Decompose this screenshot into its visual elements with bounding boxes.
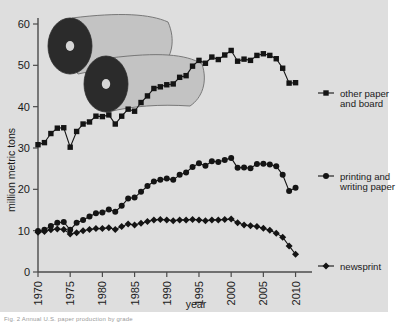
data-point [35,142,40,147]
data-point [87,214,93,220]
data-point [119,203,125,209]
data-point [247,222,254,229]
data-point [74,129,79,134]
x-tick-label: 2000 [225,281,237,305]
data-point [228,48,233,53]
data-point [132,195,138,201]
data-point [221,216,228,223]
data-point [241,164,247,170]
data-point [86,226,93,233]
data-point [241,56,246,61]
data-point [215,216,222,223]
data-point [176,216,183,223]
data-point [157,216,164,223]
data-point [293,80,298,85]
legend-label-line2: and board [340,98,383,109]
data-point [55,125,60,130]
y-tick-label: 10 [18,225,30,237]
data-point [164,176,170,182]
data-point [151,178,157,184]
data-point [273,230,280,237]
data-point [125,221,132,228]
data-point [235,59,240,64]
data-point [112,209,118,215]
legend-marker-diamond [323,263,330,270]
data-point [260,225,267,232]
data-point [189,216,196,223]
data-point [138,100,143,105]
data-point [260,161,266,167]
data-point [170,217,177,224]
y-axis-title: million metric tons [5,128,17,212]
y-tick-label: 0 [24,266,30,278]
paper-roll-illustration [48,15,204,112]
data-point [157,177,163,183]
data-point [61,219,67,225]
figure-container: 0102030405060197019751980198519901995200… [0,0,398,326]
chart-canvas: 0102030405060197019751980198519901995200… [0,0,398,326]
data-point [158,84,163,89]
data-point [144,218,151,225]
legend-label: newsprint [340,261,381,272]
legend-item-printing-and-writing-paper[interactable]: printing andwriting paper [318,171,396,193]
data-point [150,216,157,223]
data-point [48,131,53,136]
data-point [215,159,221,165]
data-point [183,216,190,223]
data-point [261,51,266,56]
x-tick-label: 1990 [161,281,173,305]
data-point [92,225,99,232]
legend-label-line2: writing paper [339,181,396,192]
data-point [60,226,67,233]
data-point [93,113,98,118]
data-point [54,226,61,233]
x-tick-label: 1985 [129,281,141,305]
legend-item-other-paper-and-board[interactable]: other paperand board [318,88,390,110]
data-point [286,80,291,85]
x-tick-label: 1980 [96,281,108,305]
data-point [80,121,85,126]
data-point [67,144,72,149]
data-point [73,229,80,236]
data-point [280,172,286,178]
data-point [208,216,215,223]
data-point [254,161,260,167]
data-point [105,224,112,231]
figure-caption: Fig. 2 Annual U.S. paper production by g… [4,316,133,322]
data-point [131,221,138,228]
data-point [106,112,111,117]
data-point [125,106,130,111]
data-point [254,53,259,58]
legend-marker-square [323,90,328,95]
data-point [144,183,150,189]
y-tick-label: 20 [18,183,30,195]
data-point [80,227,87,234]
data-point [228,216,235,223]
legend-item-newsprint[interactable]: newsprint [318,261,381,272]
data-point [222,157,228,163]
y-tick-label: 40 [18,101,30,113]
data-point [87,119,92,124]
data-point [132,109,137,114]
data-point [195,216,202,223]
data-point [293,185,299,191]
data-point [248,58,253,63]
y-tick-label: 30 [18,142,30,154]
data-point [203,61,208,66]
data-point [42,140,47,145]
data-point [222,52,227,57]
data-point [273,163,279,169]
x-tick-label: 2005 [257,281,269,305]
data-point [80,217,86,223]
data-point [151,86,156,91]
data-point [100,114,105,119]
data-point [196,160,202,166]
y-tick-label: 60 [18,18,30,30]
x-tick-label: 2010 [290,281,302,305]
data-point [170,177,176,183]
data-point [119,113,124,118]
data-point [112,226,119,233]
x-tick-label: 1975 [64,281,76,305]
data-point [163,216,170,223]
data-point [177,75,182,80]
